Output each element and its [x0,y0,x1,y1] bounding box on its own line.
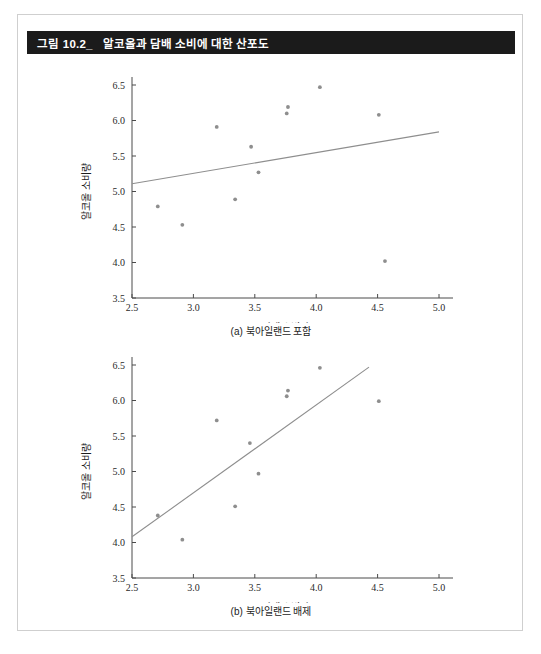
y-tick-label: 4.0 [113,257,126,268]
x-tick-label: 3.5 [249,582,261,593]
scatter-point [318,85,322,89]
scatter-point [215,418,219,422]
figure-title-bar: 그림 10.2_ 알코올과 담배 소비에 대한 산포도 [27,31,515,54]
scatter-point [215,125,219,129]
scatter-point [286,105,290,109]
scatter-point [257,472,261,476]
x-tick-label: 4.0 [310,302,323,313]
scatter-point [233,197,237,201]
scatter-point [248,441,252,445]
y-tick-label: 5.0 [113,466,126,477]
y-tick-label: 4.5 [113,222,126,233]
scatter-point [249,145,253,149]
scatter-point [257,170,261,174]
chart-a-svg: 2.53.03.54.04.55.03.54.04.55.05.56.06.5담… [18,65,524,323]
scatter-point [285,394,289,398]
x-tick-label: 4.5 [371,582,384,593]
scatter-point [180,538,184,542]
chart-a-caption: (a) 북아일랜드 포함 [18,323,524,338]
y-tick-label: 5.0 [113,186,126,197]
x-tick-label: 2.5 [126,302,139,313]
y-tick-label: 5.5 [113,151,126,162]
scatter-point [180,223,184,227]
x-tick-label: 4.5 [371,302,384,313]
y-axis-title: 알코올 소비량 [81,443,92,500]
regression-line [132,132,439,184]
x-tick-label: 4.0 [310,582,323,593]
y-tick-label: 6.5 [113,80,126,91]
chart-b-caption: (b) 북아일랜드 배제 [18,603,524,618]
scatter-point [156,205,160,209]
regression-line [132,367,369,537]
figure-title: 알코올과 담배 소비에 대한 산포도 [103,35,270,51]
y-tick-label: 6.0 [113,395,126,406]
chart-b-block: 2.53.03.54.04.55.03.54.04.55.05.56.06.5담… [18,345,524,630]
y-tick-label: 5.5 [113,431,126,442]
y-tick-label: 6.5 [113,360,126,371]
scatter-point [377,399,381,403]
figure-number: 그림 10.2_ [37,35,93,51]
chart-a-block: 2.53.03.54.04.55.03.54.04.55.05.56.06.5담… [18,65,524,350]
scatter-point [233,504,237,508]
scatter-point [318,366,322,370]
chart-a-plot-area: 2.53.03.54.04.55.03.54.04.55.05.56.06.5담… [18,65,524,323]
scatter-point [383,259,387,263]
figure-page: 그림 10.2_ 알코올과 담배 소비에 대한 산포도 2.53.03.54.0… [17,14,523,631]
x-tick-label: 3.0 [187,302,200,313]
y-tick-label: 4.5 [113,502,126,513]
axis-lines [132,77,453,298]
scatter-point [285,112,289,116]
x-tick-label: 2.5 [126,582,139,593]
scatter-point [377,113,381,117]
x-tick-label: 5.0 [433,302,446,313]
x-tick-label: 3.5 [249,302,261,313]
scatter-point [156,514,160,518]
y-axis-title: 알코올 소비량 [81,163,92,220]
chart-b-svg: 2.53.03.54.04.55.03.54.04.55.05.56.06.5담… [18,345,524,603]
axis-lines [132,357,453,578]
x-tick-label: 3.0 [187,582,200,593]
scatter-point [286,389,290,393]
chart-b-plot-area: 2.53.03.54.04.55.03.54.04.55.05.56.06.5담… [18,345,524,603]
y-tick-label: 4.0 [113,537,126,548]
x-tick-label: 5.0 [433,582,446,593]
y-tick-label: 3.5 [113,293,126,304]
y-tick-label: 3.5 [113,573,126,584]
y-tick-label: 6.0 [113,115,126,126]
